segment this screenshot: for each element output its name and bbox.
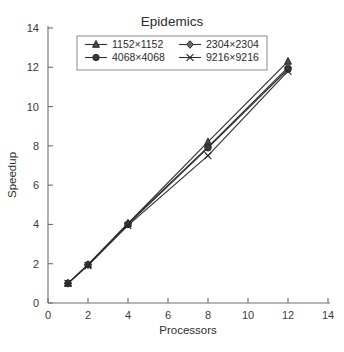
series-group bbox=[65, 57, 292, 287]
legend-label-1: 2304×2304 bbox=[206, 38, 259, 50]
x-tick-label-2: 2 bbox=[85, 309, 91, 321]
y-tick-label-0: 0 bbox=[33, 297, 39, 309]
data-point-2-2 bbox=[125, 221, 131, 227]
y-tick-label-14: 14 bbox=[27, 22, 39, 34]
speedup-line-chart: 0246810121402468101214 1152×11522304×230… bbox=[0, 0, 344, 352]
chart-page: 0246810121402468101214 1152×11522304×230… bbox=[0, 0, 344, 352]
x-tick-label-8: 8 bbox=[205, 309, 211, 321]
series-line-0 bbox=[68, 61, 288, 283]
y-tick-label-6: 6 bbox=[33, 179, 39, 191]
legend-label-0: 1152×1152 bbox=[112, 38, 163, 50]
y-axis-title: Speedup bbox=[6, 152, 18, 198]
x-tick-label-4: 4 bbox=[125, 309, 131, 321]
x-tick-label-12: 12 bbox=[282, 309, 294, 321]
x-tick-label-6: 6 bbox=[165, 309, 171, 321]
y-tick-label-4: 4 bbox=[33, 218, 39, 230]
legend-label-2: 4068×4068 bbox=[112, 51, 165, 63]
y-tick-label-10: 10 bbox=[27, 101, 39, 113]
data-point-2-3 bbox=[205, 145, 211, 151]
x-tick-label-0: 0 bbox=[45, 309, 51, 321]
legend-circle-marker bbox=[93, 54, 99, 60]
data-point-3-3 bbox=[205, 152, 212, 159]
legend-label-3: 9216×9216 bbox=[206, 51, 259, 63]
y-tick-label-12: 12 bbox=[27, 61, 39, 73]
x-tick-label-14: 14 bbox=[322, 309, 334, 321]
y-tick-label-2: 2 bbox=[33, 258, 39, 270]
y-tick-label-8: 8 bbox=[33, 140, 39, 152]
chart-title: Epidemics bbox=[141, 14, 204, 29]
chart-legend: 1152×11522304×23044068×40689216×9216 bbox=[77, 36, 267, 70]
x-tick-label-10: 10 bbox=[242, 309, 254, 321]
series-line-2 bbox=[68, 69, 288, 283]
x-axis-title: Processors bbox=[159, 324, 217, 336]
